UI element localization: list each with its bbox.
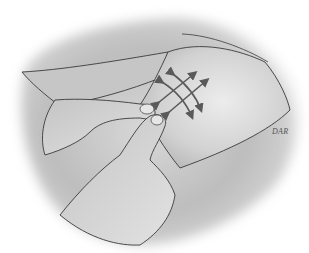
- artist-signature: DAR: [272, 127, 288, 136]
- fingernail-index: [140, 104, 154, 114]
- fingernail-thumb: [151, 115, 163, 125]
- medical-illustration: [0, 0, 309, 253]
